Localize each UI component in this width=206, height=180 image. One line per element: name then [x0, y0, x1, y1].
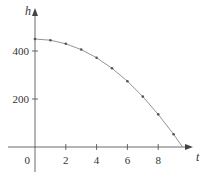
data-point-marker: [34, 38, 37, 41]
curve-path: [35, 39, 183, 147]
y-axis-label: h: [25, 4, 31, 18]
y-tick-label: 200: [13, 93, 30, 105]
data-point-marker: [142, 95, 145, 98]
axes: [8, 8, 193, 172]
y-axis-arrow-icon: [32, 8, 38, 16]
x-tick-label: 8: [155, 154, 161, 166]
axis-labels: 24682004000th: [13, 4, 201, 166]
x-axis-label: t: [196, 150, 200, 164]
data-point-marker: [80, 48, 83, 51]
data-point-marker: [157, 113, 160, 116]
chart: 24682004000th: [0, 0, 206, 180]
x-tick-label: 4: [94, 154, 100, 166]
x-axis-arrow-icon: [185, 144, 193, 150]
data-point-marker: [172, 133, 175, 136]
data-point-marker: [49, 39, 52, 42]
data-point-marker: [65, 43, 68, 46]
y-tick-label: 400: [13, 45, 30, 57]
data-point-marker: [111, 67, 114, 70]
origin-label: 0: [25, 154, 31, 166]
data-point-marker: [126, 80, 129, 83]
x-tick-label: 6: [125, 154, 131, 166]
data-curve: [35, 39, 183, 147]
x-tick-label: 2: [63, 154, 69, 166]
data-markers: [34, 38, 175, 136]
data-point-marker: [95, 56, 98, 59]
